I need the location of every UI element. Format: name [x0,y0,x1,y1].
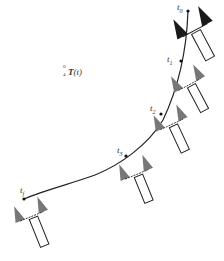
gripper-t2 [149,103,200,159]
transform-subscript: 4 [63,72,66,77]
waypoint-t3 [124,154,127,157]
waypoint-t0 [186,9,189,12]
label-t1: t1 [167,55,173,66]
label-tf: tf [20,186,24,197]
waypoint-tf [22,197,25,200]
gripper-t1 [167,62,219,119]
trajectory-path [24,11,188,199]
label-t0: t0 [177,3,183,14]
waypoint-t2 [159,112,162,115]
label-t2: t2 [150,104,156,115]
gripper-tf [10,195,60,253]
trajectory-diagram [0,0,224,261]
transform-argument: (t) [74,67,83,77]
transform-superscript: 0 [63,64,66,69]
label-t3: t3 [117,146,123,157]
waypoint-t1 [179,59,182,62]
transform-label: 0 4 T(t) [63,67,82,77]
